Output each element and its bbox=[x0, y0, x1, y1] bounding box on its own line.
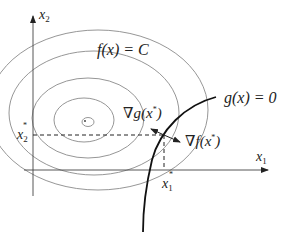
grad-f-label: ∇f(x*) bbox=[185, 134, 220, 149]
x2-star-label: x2 * bbox=[17, 128, 28, 142]
constraint-label: g(x) = 0 bbox=[224, 90, 277, 106]
contour-1 bbox=[82, 118, 94, 127]
x-axis-label: x1 bbox=[256, 150, 267, 164]
y-axis-label: x2 bbox=[39, 8, 50, 22]
x1-star-label: x1 * bbox=[162, 177, 173, 191]
level-set-label: f(x) = C bbox=[97, 42, 149, 58]
minimum-point bbox=[84, 120, 86, 122]
grad-f-arrow bbox=[164, 135, 180, 142]
grad-g-label: ∇g(x*) bbox=[123, 106, 162, 121]
grad-g-arrow bbox=[151, 129, 164, 135]
